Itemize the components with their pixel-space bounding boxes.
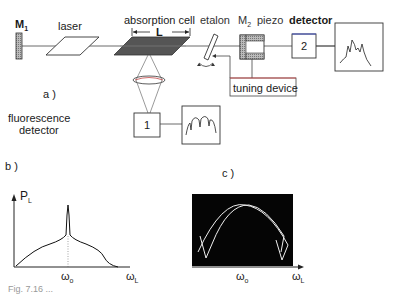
part-b-label: b ) — [5, 160, 18, 172]
detector-label: detector — [289, 14, 332, 26]
laser-label: laser — [58, 20, 82, 32]
center-tick-label-b: ωo — [61, 270, 74, 284]
etalon-label: etalon — [200, 14, 230, 26]
figure-caption: Fig. 7.16 ... — [8, 284, 53, 294]
mirror-m1-label: M1 — [15, 18, 28, 32]
plot-c — [192, 194, 304, 270]
fluorescence-detector-label-line2: detector — [19, 124, 59, 136]
part-a-label: a ) — [43, 88, 56, 100]
mirror-m1-shape — [16, 33, 22, 59]
absorption-cell-label: absorption cell — [124, 14, 195, 26]
detector-signal-display — [335, 23, 383, 71]
tuning-device-label: tuning device — [233, 82, 298, 94]
piezo-label: piezo — [257, 14, 283, 26]
center-tick-label-c: ωo — [236, 270, 249, 284]
x-axis-label-b: ωL — [126, 270, 139, 284]
detector-number: 2 — [301, 40, 307, 52]
fluorescence-detector-number: 1 — [144, 119, 150, 131]
plot-b — [12, 194, 131, 267]
fluorescence-detector-label-line1: fluorescence — [8, 112, 70, 124]
mirror-m2-label: M2 — [238, 14, 251, 28]
part-c-label: c ) — [222, 167, 234, 179]
cell-length-label: L — [156, 26, 163, 38]
y-axis-label-b: PL — [20, 190, 32, 204]
x-axis-label-c: ωL — [292, 270, 305, 284]
